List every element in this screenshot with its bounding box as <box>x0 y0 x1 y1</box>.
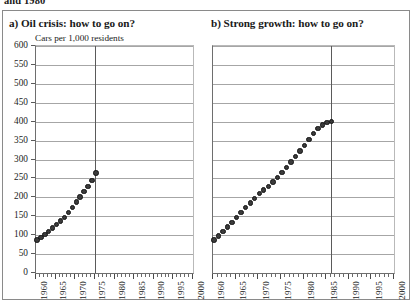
chart-panel-b: b) Strong growth: how to go on? 19601965… <box>201 11 409 299</box>
gridline-y-400 <box>213 122 394 123</box>
x-axis-tick-1990 <box>153 274 154 279</box>
x-axis-tick-label-1995: 1995 <box>176 281 186 300</box>
x-axis-tick-1993 <box>165 274 166 277</box>
data-point <box>225 224 230 229</box>
x-axis-tick-1967 <box>244 274 245 277</box>
data-point <box>238 210 243 215</box>
x-axis-tick-1962 <box>43 274 44 277</box>
x-axis-tick-1998 <box>384 274 385 277</box>
data-point <box>62 215 67 220</box>
x-axis-tick-1979 <box>298 274 299 277</box>
x-axis-tick-1969 <box>253 274 254 277</box>
y-axis-tick-label-50: 50 <box>19 248 28 258</box>
y-axis-tick-label-200: 200 <box>14 191 28 201</box>
x-axis-tick-1974 <box>90 274 91 277</box>
x-axis-tick-label-1965: 1965 <box>58 281 68 300</box>
x-axis-tick-1998 <box>184 274 185 277</box>
x-axis-tick-1972 <box>82 274 83 277</box>
x-axis-tick-1981 <box>117 274 118 277</box>
data-point <box>270 179 275 184</box>
y-axis-panel-a: 050100150200250300350400450500550600 <box>3 45 35 274</box>
x-axis-tick-label-1970: 1970 <box>78 281 88 300</box>
data-point <box>252 196 257 201</box>
gridline-y-200 <box>213 197 394 198</box>
y-axis-tick-label-350: 350 <box>14 135 28 145</box>
data-point <box>93 170 98 175</box>
x-axis-tick-1988 <box>145 274 146 277</box>
gridline-y-350 <box>213 141 394 142</box>
x-axis-panel-a: 196019651970197519801985199019952000 <box>35 274 194 304</box>
data-point <box>70 205 75 210</box>
x-axis-tick-2000 <box>393 274 394 279</box>
y-axis-tick-label-500: 500 <box>14 78 28 88</box>
x-axis-tick-label-1965: 1965 <box>238 281 248 300</box>
data-point <box>77 194 82 199</box>
chart-panel-a: a) Oil crisis: how to go on? Cars per 1,… <box>3 11 201 299</box>
x-axis-tick-1984 <box>129 274 130 277</box>
x-axis-tick-1983 <box>316 274 317 277</box>
x-axis-tick-1977 <box>289 274 290 277</box>
x-axis-tick-label-1990: 1990 <box>351 281 361 300</box>
x-axis-panel-b: 196019651970197519801985199019952000 <box>212 274 395 304</box>
x-axis-tick-1960 <box>35 274 36 279</box>
x-axis-tick-1981 <box>307 274 308 277</box>
x-axis-tick-1973 <box>271 274 272 277</box>
x-axis-tick-1963 <box>226 274 227 277</box>
x-axis-tick-1970 <box>257 274 258 279</box>
x-axis-tick-1965 <box>235 274 236 279</box>
caption-fragment: and 1980 <box>4 0 45 6</box>
data-point <box>89 178 94 183</box>
x-axis-tick-1971 <box>262 274 263 277</box>
y-axis-tick-label-100: 100 <box>14 229 28 239</box>
gridline-y-150 <box>213 216 394 217</box>
x-axis-tick-1996 <box>176 274 177 277</box>
data-point <box>66 210 71 215</box>
data-point <box>302 143 307 148</box>
x-axis-tick-1968 <box>248 274 249 277</box>
y-axis-tick-label-400: 400 <box>14 116 28 126</box>
x-axis-tick-1993 <box>361 274 362 277</box>
y-axis-tick-label-600: 600 <box>14 40 28 50</box>
data-point <box>229 220 234 225</box>
x-axis-tick-1986 <box>330 274 331 277</box>
gridline-y-50 <box>36 254 193 255</box>
x-axis-tick-1962 <box>221 274 222 277</box>
gridline-y-550 <box>36 65 193 66</box>
x-axis-tick-1983 <box>125 274 126 277</box>
data-point <box>329 119 334 124</box>
x-axis-tick-2000 <box>192 274 193 279</box>
data-point <box>311 131 316 136</box>
x-axis-tick-1967 <box>62 274 63 277</box>
data-point <box>288 159 293 164</box>
x-axis-tick-1964 <box>230 274 231 277</box>
x-axis-tick-1992 <box>357 274 358 277</box>
gridline-y-300 <box>213 160 394 161</box>
y-axis-tick-label-450: 450 <box>14 97 28 107</box>
gridline-y-350 <box>36 141 193 142</box>
x-axis-tick-1985 <box>133 274 134 279</box>
x-axis-tick-1989 <box>343 274 344 277</box>
data-point <box>275 175 280 180</box>
x-axis-tick-1974 <box>275 274 276 277</box>
data-point <box>279 170 284 175</box>
x-axis-tick-1975 <box>280 274 281 279</box>
x-axis-tick-label-1985: 1985 <box>137 281 147 300</box>
panels-container: a) Oil crisis: how to go on? Cars per 1,… <box>3 11 409 299</box>
reference-line-1986 <box>331 46 332 273</box>
gridline-y-600 <box>36 46 193 47</box>
x-axis-tick-1982 <box>312 274 313 277</box>
x-axis-tick-label-2000: 2000 <box>397 281 407 300</box>
x-axis-tick-label-1970: 1970 <box>261 281 271 300</box>
x-axis-tick-1973 <box>86 274 87 277</box>
x-axis-tick-1995 <box>172 274 173 279</box>
x-axis-tick-1986 <box>137 274 138 277</box>
x-axis-tick-label-1960: 1960 <box>39 281 49 300</box>
x-axis-tick-1979 <box>110 274 111 277</box>
y-axis-tick-label-300: 300 <box>14 154 28 164</box>
reference-line-1975 <box>95 46 96 273</box>
panel-a-title: a) Oil crisis: how to go on? <box>9 17 135 29</box>
x-axis-tick-1999 <box>188 274 189 277</box>
x-axis-tick-1968 <box>66 274 67 277</box>
x-axis-tick-1994 <box>168 274 169 277</box>
x-axis-tick-1978 <box>293 274 294 277</box>
